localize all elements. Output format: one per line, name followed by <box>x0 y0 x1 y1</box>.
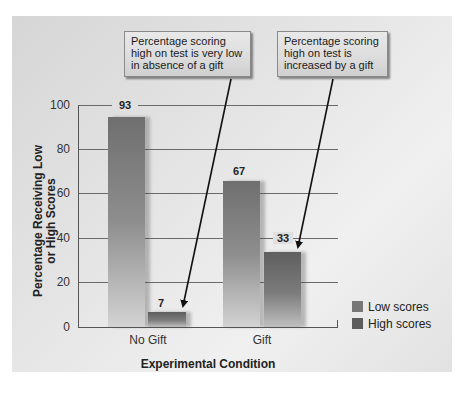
legend-item-high: High scores <box>352 315 431 332</box>
legend-item-low: Low scores <box>352 298 431 315</box>
callout-gift-line2: high on test is <box>284 47 381 59</box>
legend-label-high: High scores <box>368 317 431 331</box>
legend-label-low: Low scores <box>368 300 429 314</box>
callout-gift-line3: increased by a gift <box>284 59 381 71</box>
callout-no-gift-line3: in absence of a gift <box>131 59 244 71</box>
callout-no-gift-line1: Percentage scoring <box>131 35 244 47</box>
callout-no-gift: Percentage scoring high on test is very … <box>124 31 251 77</box>
callout-no-gift-line2: high on test is very low <box>131 47 244 59</box>
legend-swatch-high <box>352 318 363 329</box>
callout-gift-line1: Percentage scoring <box>284 35 381 47</box>
legend-swatch-low <box>352 301 363 312</box>
legend: Low scores High scores <box>352 298 431 332</box>
callout-gift: Percentage scoring high on test is incre… <box>277 31 388 77</box>
